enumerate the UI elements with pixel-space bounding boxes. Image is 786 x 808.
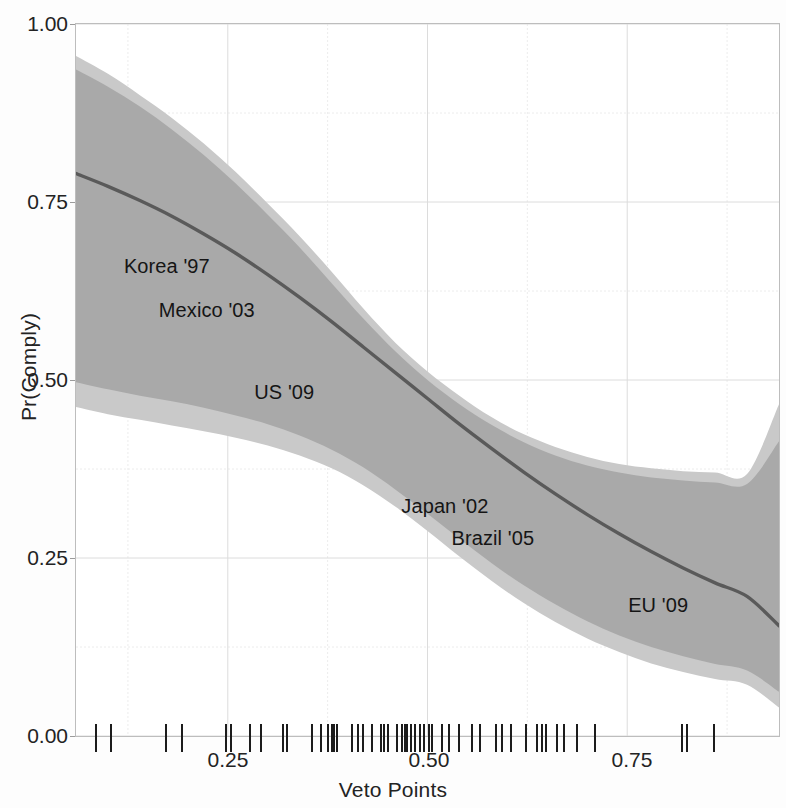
rug-tick bbox=[713, 724, 715, 752]
rug-tick bbox=[406, 724, 408, 752]
rug-tick bbox=[371, 724, 373, 752]
rug-tick bbox=[441, 724, 443, 752]
rug-tick bbox=[501, 724, 503, 752]
rug-tick bbox=[320, 724, 322, 752]
y-tick-label-050: 0.50 bbox=[0, 368, 68, 392]
chart-figure: Pr(Comply) 1.00 0.75 0.50 0.25 0.00 0.25… bbox=[0, 0, 786, 808]
annotation-label: EU '09 bbox=[628, 594, 688, 617]
rug-tick bbox=[357, 724, 359, 752]
y-tick-label-000: 0.00 bbox=[0, 724, 68, 748]
rug-tick bbox=[536, 724, 538, 752]
y-tick-text: 1.00 bbox=[27, 12, 68, 35]
x-axis-title: Veto Points bbox=[0, 778, 786, 802]
rug-tick bbox=[249, 724, 251, 752]
rug-tick bbox=[681, 724, 683, 752]
plot-canvas bbox=[76, 24, 779, 736]
rug-tick bbox=[362, 724, 364, 752]
rug-tick bbox=[404, 724, 406, 752]
rug-plot bbox=[75, 724, 778, 754]
y-tick-label-075: 0.75 bbox=[0, 190, 68, 214]
rug-tick bbox=[110, 724, 112, 752]
annotation-label: US '09 bbox=[254, 381, 314, 404]
rug-tick bbox=[225, 724, 227, 752]
rug-tick bbox=[423, 724, 425, 752]
rug-tick bbox=[286, 724, 288, 752]
rug-tick bbox=[525, 724, 527, 752]
annotation-label: Japan '02 bbox=[401, 495, 488, 518]
rug-tick bbox=[282, 724, 284, 752]
rug-tick bbox=[181, 724, 183, 752]
rug-tick bbox=[594, 724, 596, 752]
y-tick-text: 0.75 bbox=[27, 190, 68, 213]
y-tick-text: 0.50 bbox=[27, 368, 68, 391]
rug-tick bbox=[327, 724, 329, 752]
rug-tick bbox=[387, 724, 389, 752]
rug-tick bbox=[401, 724, 403, 752]
y-tick-label-025: 0.25 bbox=[0, 546, 68, 570]
rug-tick bbox=[165, 724, 167, 752]
y-tick-text: 0.25 bbox=[27, 546, 68, 569]
rug-tick bbox=[260, 724, 262, 752]
rug-tick bbox=[686, 724, 688, 752]
rug-tick bbox=[563, 724, 565, 752]
rug-tick bbox=[471, 724, 473, 752]
annotation-label: Korea '97 bbox=[124, 255, 210, 278]
plot-panel bbox=[75, 23, 780, 737]
rug-tick bbox=[458, 724, 460, 752]
annotation-label: Mexico '03 bbox=[159, 299, 255, 322]
y-axis-title: Pr(Comply) bbox=[17, 292, 41, 442]
annotation-label: Brazil '05 bbox=[451, 527, 534, 550]
rug-tick bbox=[336, 724, 338, 752]
rug-tick bbox=[556, 724, 558, 752]
rug-tick bbox=[410, 724, 412, 752]
rug-tick bbox=[230, 724, 232, 752]
rug-tick bbox=[545, 724, 547, 752]
rug-tick bbox=[383, 724, 385, 752]
rug-tick bbox=[396, 724, 398, 752]
y-tick-text: 0.00 bbox=[27, 724, 68, 747]
rug-tick bbox=[95, 724, 97, 752]
rug-tick bbox=[351, 724, 353, 752]
rug-tick bbox=[510, 724, 512, 752]
rug-tick bbox=[428, 724, 430, 752]
rug-tick bbox=[495, 724, 497, 752]
rug-tick bbox=[331, 724, 333, 752]
rug-tick bbox=[380, 724, 382, 752]
rug-tick bbox=[311, 724, 313, 752]
y-tick-label-1: 1.00 bbox=[0, 12, 68, 36]
rug-tick bbox=[414, 724, 416, 752]
rug-tick bbox=[479, 724, 481, 752]
rug-tick bbox=[541, 724, 543, 752]
rug-tick bbox=[419, 724, 421, 752]
rug-tick bbox=[333, 724, 335, 752]
rug-tick bbox=[431, 724, 433, 752]
rug-tick bbox=[576, 724, 578, 752]
rug-tick bbox=[448, 724, 450, 752]
